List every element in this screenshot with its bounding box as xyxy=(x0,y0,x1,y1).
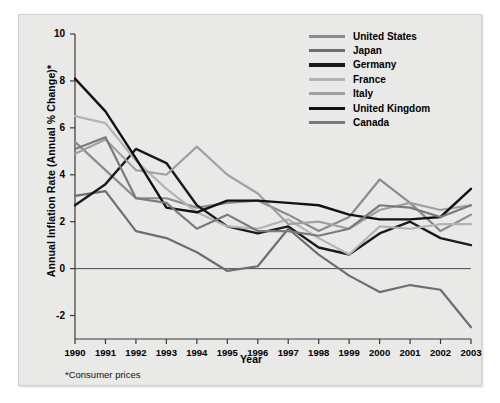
legend-label: United Kingdom xyxy=(353,103,430,114)
x-tick-label: 2003 xyxy=(451,347,491,358)
legend-item[interactable]: Canada xyxy=(309,115,430,129)
legend-label: United States xyxy=(353,31,417,42)
legend-label: France xyxy=(353,74,386,85)
chart-panel: Annual Inflation Rate (Annual % Change)*… xyxy=(18,14,482,386)
y-tick-label: -2 xyxy=(39,310,65,321)
legend-label: Germany xyxy=(353,59,396,70)
y-tick-label: 2 xyxy=(39,216,65,227)
chart-figure: Annual Inflation Rate (Annual % Change)*… xyxy=(0,0,500,403)
y-tick-label: 8 xyxy=(39,75,65,86)
legend-swatch-icon xyxy=(309,92,345,95)
series-line-japan xyxy=(75,191,471,327)
legend-swatch-icon xyxy=(309,49,345,52)
legend-item[interactable]: United States xyxy=(309,29,430,43)
y-tick-label: 6 xyxy=(39,122,65,133)
legend-label: Italy xyxy=(353,88,373,99)
chart-footnote: *Consumer prices xyxy=(65,369,141,380)
legend-label: Japan xyxy=(353,45,382,56)
legend-swatch-icon xyxy=(309,63,345,66)
legend-swatch-icon xyxy=(309,35,345,38)
legend-swatch-icon xyxy=(309,78,345,81)
legend-item[interactable]: France xyxy=(309,72,430,86)
chart-legend: United StatesJapanGermanyFranceItalyUnit… xyxy=(309,29,430,130)
y-tick-label: 10 xyxy=(39,28,65,39)
legend-label: Canada xyxy=(353,117,389,128)
series-line-france xyxy=(75,116,471,254)
y-tick-label: 0 xyxy=(39,263,65,274)
legend-item[interactable]: Japan xyxy=(309,43,430,57)
series-line-italy xyxy=(75,140,471,229)
legend-item[interactable]: United Kingdom xyxy=(309,101,430,115)
y-tick-label: 4 xyxy=(39,169,65,180)
legend-item[interactable]: Italy xyxy=(309,87,430,101)
legend-swatch-icon xyxy=(309,107,345,110)
legend-item[interactable]: Germany xyxy=(309,58,430,72)
legend-swatch-icon xyxy=(309,121,345,124)
